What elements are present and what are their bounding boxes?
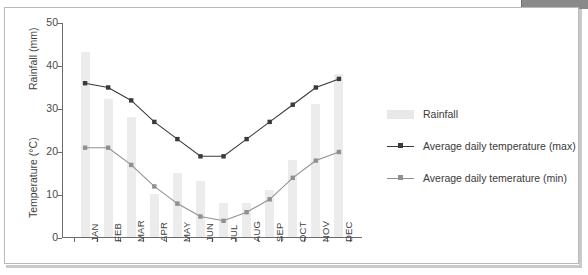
legend-label: Average daily temperature (max) xyxy=(423,140,576,152)
data-point-marker xyxy=(314,158,318,162)
chart-legend: RainfallAverage daily temperature (max)A… xyxy=(387,108,577,184)
data-point-marker xyxy=(267,120,271,124)
x-axis-tick-label: MAR xyxy=(135,220,146,242)
x-axis-tick-label: APR xyxy=(158,222,169,242)
data-point-marker xyxy=(198,154,202,158)
data-point-marker xyxy=(83,146,87,150)
data-point-marker xyxy=(244,210,248,214)
legend-label: Average daily temerature (min) xyxy=(423,172,567,184)
legend-swatch-line-icon xyxy=(387,174,414,183)
data-point-marker xyxy=(198,214,202,218)
temperature-lines xyxy=(62,23,362,238)
data-point-marker xyxy=(337,150,341,154)
legend-item[interactable]: Average daily temerature (min) xyxy=(387,172,577,184)
chart-card: Rainfall (mm) Temperature (°C) 010203040… xyxy=(4,7,579,264)
x-axis-tick-label: JUL xyxy=(228,225,239,243)
data-point-marker xyxy=(175,137,179,141)
data-point-marker xyxy=(337,77,341,81)
data-point-marker xyxy=(152,184,156,188)
data-point-marker xyxy=(244,137,248,141)
legend-item[interactable]: Average daily temperature (max) xyxy=(387,140,577,152)
x-axis-tick-label: FEB xyxy=(112,223,123,242)
frame-shadow-right xyxy=(579,9,582,267)
data-point-marker xyxy=(291,176,295,180)
data-point-marker xyxy=(267,197,271,201)
data-point-marker xyxy=(83,81,87,85)
y-axis-tick xyxy=(57,238,62,239)
temperature-line xyxy=(85,79,339,156)
x-axis-tick-label: OCT xyxy=(297,221,308,242)
x-axis-tick-label: MAY xyxy=(181,222,192,242)
x-axis-tick-label: AUG xyxy=(251,221,262,242)
x-axis-tick-label: NOV xyxy=(320,221,331,242)
data-point-marker xyxy=(314,85,318,89)
data-point-marker xyxy=(221,154,225,158)
legend-item[interactable]: Rainfall xyxy=(387,108,577,120)
data-point-marker xyxy=(129,163,133,167)
plot-area xyxy=(62,23,362,238)
legend-label: Rainfall xyxy=(423,108,458,120)
data-point-marker xyxy=(129,98,133,102)
legend-swatch-line-icon xyxy=(387,142,414,151)
y-axis-labels: 01020304050 xyxy=(26,23,58,238)
data-point-marker xyxy=(152,120,156,124)
x-axis-tick-label: SEP xyxy=(274,222,285,242)
data-point-marker xyxy=(291,103,295,107)
data-point-marker xyxy=(106,85,110,89)
legend-swatch-bar-icon xyxy=(387,110,414,119)
data-point-marker xyxy=(221,219,225,223)
data-point-marker xyxy=(106,146,110,150)
x-axis-tick-label: JAN xyxy=(89,223,100,242)
x-axis-labels: JANFEBMARAPRMAYJUNJULAUGSEPOCTNOVDEC xyxy=(62,242,372,275)
x-axis-tick-label: JUN xyxy=(204,223,215,242)
temperature-line xyxy=(85,148,339,221)
data-point-marker xyxy=(175,201,179,205)
x-axis-tick-label: DEC xyxy=(343,221,354,242)
